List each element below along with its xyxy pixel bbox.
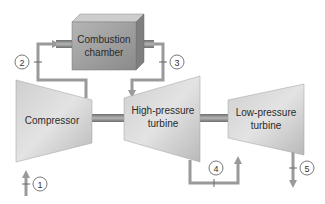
high-pressure-turbine: High-pressure turbine — [124, 76, 200, 162]
shaft-compressor-hp — [90, 114, 126, 122]
shaft-hp-lp — [200, 114, 230, 122]
lp-turbine-label-line1: Low-pressure — [236, 107, 297, 118]
combustion-chamber: Combustion chamber — [56, 14, 154, 70]
hp-turbine-label-line2: turbine — [148, 118, 179, 129]
hp-turbine-label-line1: High-pressure — [132, 105, 195, 116]
state-marker-4: 4 — [209, 161, 223, 175]
svg-text:3: 3 — [174, 58, 179, 68]
state-marker-3: 3 — [170, 55, 184, 69]
svg-text:5: 5 — [304, 164, 309, 174]
chamber-label-line2: chamber — [85, 47, 125, 58]
compressor: Compressor — [16, 80, 92, 162]
low-pressure-turbine: Low-pressure turbine — [228, 84, 304, 155]
state-marker-5: 5 — [300, 161, 314, 175]
chamber-inlet-nozzle — [56, 40, 72, 48]
gas-turbine-diagram: Combustion chamber Compressor High-press… — [0, 0, 325, 204]
state-marker-2: 2 — [15, 55, 29, 69]
svg-text:4: 4 — [213, 164, 218, 174]
state-marker-1: 1 — [33, 177, 47, 191]
svg-text:1: 1 — [37, 180, 42, 190]
lp-turbine-label-line2: turbine — [251, 120, 282, 131]
chamber-label-line1: Combustion — [77, 34, 130, 45]
compressor-label: Compressor — [25, 115, 80, 126]
svg-text:2: 2 — [19, 58, 24, 68]
